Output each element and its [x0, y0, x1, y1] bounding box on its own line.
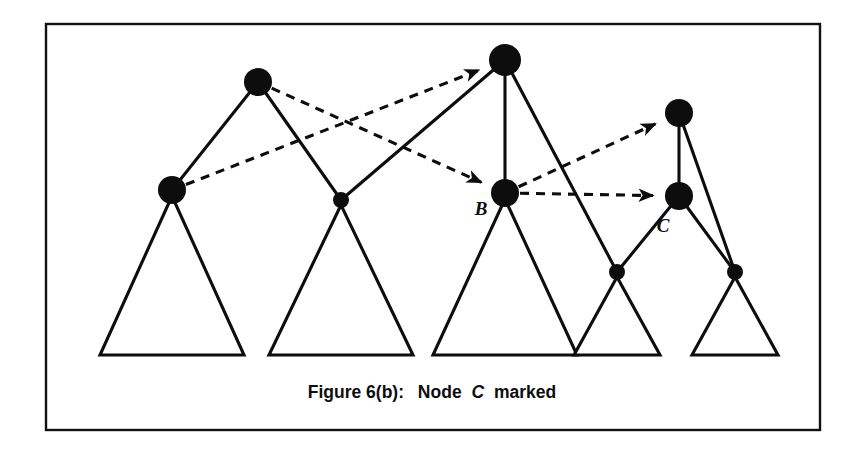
caption-suffix: marked — [494, 382, 556, 402]
pointer-arrow — [519, 124, 656, 187]
caption-prefix: Figure 6(b): — [308, 382, 404, 402]
tree-node — [727, 264, 743, 280]
tree-node — [158, 176, 186, 204]
pointer-arrow — [186, 70, 479, 184]
tree-edge — [258, 82, 341, 200]
tree-node — [333, 192, 349, 208]
tree-node — [665, 99, 693, 127]
figure-container: BC Figure 6(b): Node C marked — [0, 0, 864, 457]
subtree-triangle — [692, 277, 778, 355]
figure-caption: Figure 6(b): Node C marked — [308, 382, 557, 402]
figure-canvas: BC Figure 6(b): Node C marked — [0, 0, 864, 457]
tree-node-b — [491, 179, 519, 207]
pointer-arrow — [520, 193, 653, 195]
caption-node-word: Node — [418, 382, 462, 402]
tree-nodes — [158, 44, 743, 280]
subtree-triangles — [100, 196, 778, 355]
tree-edge — [617, 196, 679, 272]
tree-node — [609, 264, 625, 280]
tree-node — [244, 68, 272, 96]
node-label-c: C — [657, 215, 670, 236]
tree-node-c — [665, 182, 693, 210]
subtree-triangle — [574, 277, 660, 355]
subtree-triangle — [100, 196, 244, 355]
caption-emphasis: C — [471, 382, 484, 402]
tree-edge — [172, 82, 258, 190]
node-label-b: B — [474, 198, 488, 219]
subtree-triangle — [269, 205, 413, 355]
tree-edge — [679, 196, 735, 272]
tree-node — [489, 44, 521, 76]
subtree-triangle — [433, 199, 577, 355]
